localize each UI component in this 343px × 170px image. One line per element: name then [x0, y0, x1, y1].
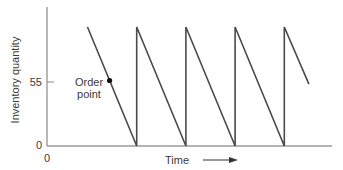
order-point-label-line2: point: [77, 88, 101, 100]
y-tick-label-55: 55: [30, 76, 42, 88]
y-axis-label: Inventory quantity: [9, 36, 21, 123]
time-arrowhead-icon: [229, 157, 238, 163]
inventory-series: [88, 27, 309, 146]
order-point-label-line1: Order: [75, 76, 103, 88]
inventory-line: [88, 27, 309, 146]
x-axis-label: Time: [165, 154, 189, 166]
y-tick-label-0: 0: [36, 139, 42, 151]
order-point-marker: [107, 78, 112, 83]
x-origin-label: 0: [44, 152, 50, 164]
inventory-sawtooth-chart: 55 0 0 Order point Inventory quantity Ti…: [0, 0, 343, 170]
